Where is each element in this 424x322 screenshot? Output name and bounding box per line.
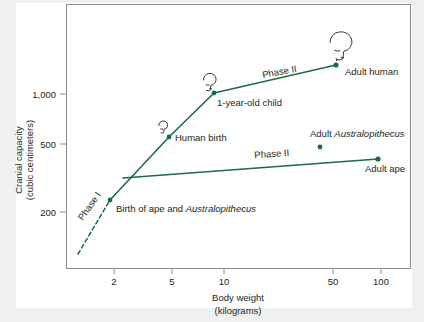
cranial-capacity-chart: 1,000 500 200 Cranial capacity (cubic ce… — [0, 0, 424, 322]
marker-adult-human — [333, 62, 338, 67]
x-tick-label-100: 100 — [373, 276, 389, 287]
marker-adult-australopithecus — [318, 145, 323, 150]
label-adult-australopithecus: Adult Australopithecus — [310, 128, 405, 139]
figure-container: 1,000 500 200 Cranial capacity (cubic ce… — [0, 0, 424, 322]
adult-skull-icon — [330, 32, 352, 61]
y-axis-units: (cubic centimeters) — [24, 120, 35, 200]
label-birth-of-ape-text: Birth of ape and — [116, 203, 186, 214]
infant-skull-icon — [159, 121, 168, 133]
y-axis-title: Cranial capacity — [13, 126, 24, 194]
marker-one-year-old-child — [212, 91, 217, 96]
marker-human-birth — [167, 135, 172, 140]
series-ape-line — [123, 159, 378, 178]
label-birth-of-ape: Birth of ape and Australopithecus — [116, 203, 256, 214]
annotation-phase-one: Phase I — [75, 190, 102, 223]
y-tick-label-500: 500 — [40, 139, 56, 150]
annotation-phase-two-lower: Phase II — [254, 147, 290, 160]
label-birth-of-ape-species: Australopithecus — [185, 203, 256, 214]
label-adult-ape: Adult ape — [365, 163, 405, 174]
y-tick-label-200: 200 — [40, 207, 56, 218]
x-tick-label-5: 5 — [169, 276, 174, 287]
label-adult-human: Adult human — [345, 66, 398, 77]
child-skull-icon — [203, 73, 216, 90]
x-tick-label-10: 10 — [219, 276, 230, 287]
label-one-year-old-child: 1-year-old child — [217, 97, 282, 108]
x-tick-label-2: 2 — [111, 276, 116, 287]
marker-birth-of-ape — [108, 198, 113, 203]
x-tick-label-50: 50 — [328, 276, 339, 287]
x-axis-title: Body weight — [212, 292, 264, 303]
x-axis-units: (kilograms) — [215, 305, 262, 316]
y-tick-label-1000: 1,000 — [32, 89, 56, 100]
marker-adult-ape — [375, 156, 380, 161]
label-human-birth: Human birth — [175, 132, 227, 143]
label-adult-australopithecus-species: Australopithecus — [333, 128, 404, 139]
label-adult-australopithecus-prefix: Adult — [310, 128, 334, 139]
